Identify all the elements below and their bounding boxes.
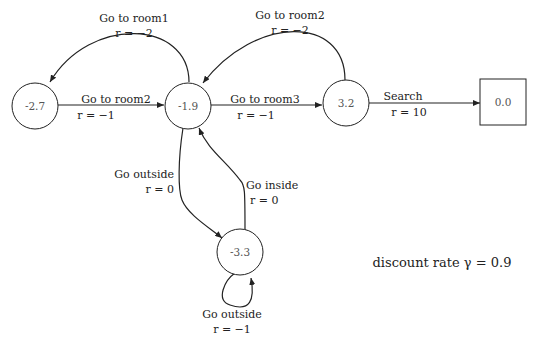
state-node-5: -3.3 [217, 229, 263, 275]
mdp-diagram: -2.7 -1.9 3.2 0.0 -3.3 Go to room2 r = −… [0, 0, 535, 344]
edge-s5-s2 [199, 128, 245, 230]
edge-label-action: Go to room2 [81, 93, 150, 106]
edge-s2-s1 [50, 34, 189, 82]
edge-label-action: Go outside [114, 168, 174, 181]
svg-text:-2.7: -2.7 [25, 100, 45, 112]
svg-text:0.0: 0.0 [495, 96, 512, 108]
edge-label-reward: r = 10 [391, 106, 426, 119]
edge-label-reward: r = −1 [77, 109, 115, 122]
edge-label-action: Go outside [202, 308, 262, 321]
edge-s5-s5 [222, 273, 252, 307]
edge-label-reward: r = −2 [271, 24, 309, 37]
state-node-1: -2.7 [12, 83, 58, 129]
terminal-node: 0.0 [480, 79, 526, 125]
edge-label-reward: r = −1 [213, 323, 251, 336]
svg-text:3.2: 3.2 [338, 97, 355, 109]
edge-s3-s2 [203, 32, 345, 83]
edge-label-action: Go to room2 [255, 9, 324, 22]
state-node-2: -1.9 [165, 83, 211, 129]
edge-label-action: Go to room1 [99, 12, 168, 25]
edge-label-reward: r = −1 [237, 109, 275, 122]
edge-label-action: Go to room3 [230, 93, 299, 106]
discount-rate-note: discount rate γ = 0.9 [373, 255, 512, 270]
edge-label-reward: r = −2 [115, 27, 153, 40]
svg-text:-3.3: -3.3 [230, 246, 250, 258]
state-node-3: 3.2 [323, 80, 369, 126]
edge-s2-s5 [179, 128, 222, 238]
edge-label-reward: r = 0 [146, 183, 174, 196]
edge-label-reward: r = 0 [250, 194, 278, 207]
edge-label-action: Go inside [246, 179, 298, 192]
edge-label-action: Search [383, 90, 422, 103]
svg-text:-1.9: -1.9 [178, 100, 198, 112]
